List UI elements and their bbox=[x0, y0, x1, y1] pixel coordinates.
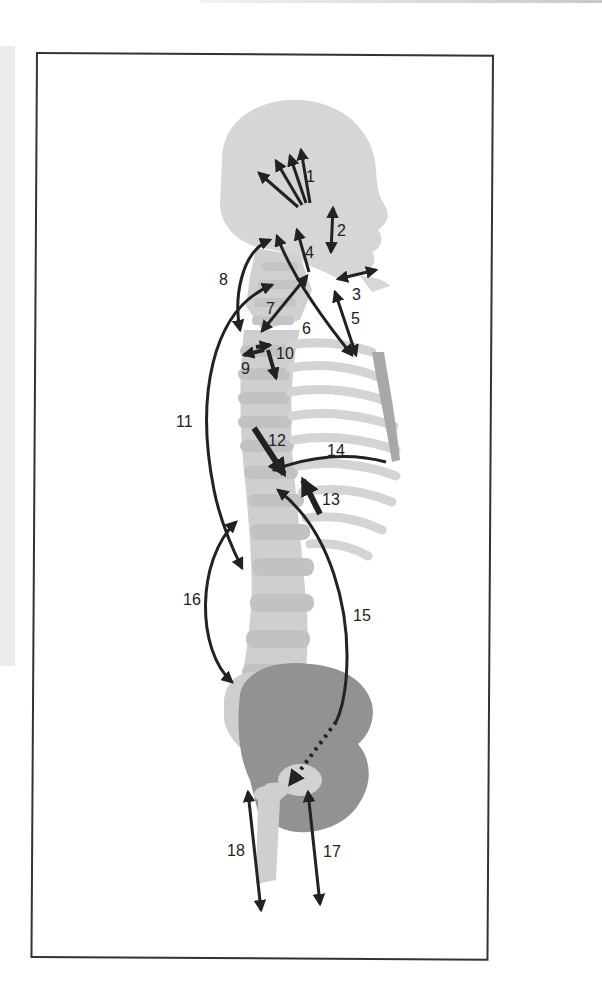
label-17: 17 bbox=[323, 843, 341, 860]
arrow-2 bbox=[331, 208, 333, 252]
label-6: 6 bbox=[302, 320, 311, 337]
label-8: 8 bbox=[219, 271, 228, 288]
skeleton-diagram: 1 2 3 4 5 6 7 8 9 10 11 12 13 14 15 16 1… bbox=[0, 0, 602, 1004]
label-10: 10 bbox=[276, 345, 294, 362]
label-14: 14 bbox=[327, 442, 345, 459]
label-16: 16 bbox=[183, 591, 201, 608]
label-4: 4 bbox=[305, 244, 314, 261]
label-3: 3 bbox=[352, 286, 361, 303]
label-7: 7 bbox=[266, 300, 275, 317]
label-18: 18 bbox=[227, 842, 245, 859]
label-12: 12 bbox=[268, 432, 286, 449]
label-1: 1 bbox=[306, 168, 315, 185]
label-9: 9 bbox=[241, 360, 250, 377]
label-2: 2 bbox=[337, 222, 346, 239]
label-11: 11 bbox=[176, 413, 193, 430]
label-13: 13 bbox=[322, 491, 340, 508]
label-5: 5 bbox=[351, 310, 360, 327]
arrow-13 bbox=[303, 480, 320, 514]
label-15: 15 bbox=[353, 607, 371, 624]
